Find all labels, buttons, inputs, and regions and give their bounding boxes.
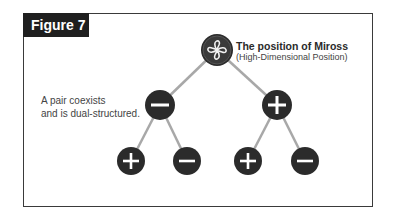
root-node	[201, 34, 233, 66]
root-subtitle: (High-Dimensional Position)	[236, 52, 348, 62]
plus-node	[117, 147, 145, 175]
minus-icon	[297, 160, 313, 163]
minus-icon	[151, 104, 169, 107]
caption-line: and is dual-structured.	[41, 107, 140, 120]
minus-node	[145, 90, 175, 120]
minus-icon	[179, 160, 195, 163]
plus-node	[262, 90, 292, 120]
root-title: The position of Miross	[236, 40, 348, 52]
minus-node	[291, 147, 319, 175]
minus-node	[173, 147, 201, 175]
caption: A pair coexists and is dual-structured.	[41, 94, 140, 120]
caption-line: A pair coexists	[41, 94, 140, 107]
plus-node	[234, 147, 262, 175]
